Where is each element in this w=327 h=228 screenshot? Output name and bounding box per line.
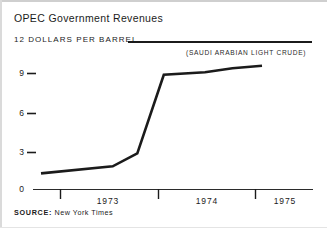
x-tick-label-1974: 1974: [184, 196, 230, 206]
data-series-line: [41, 66, 262, 174]
x-tick-label-1975: 1975: [262, 196, 308, 206]
y-tick-label-9: 9: [10, 68, 24, 78]
y-tick-label-0: 0: [10, 184, 24, 194]
source-label: SOURCE:: [14, 208, 52, 217]
x-tick-label-1973: 1973: [85, 196, 131, 206]
source-note: SOURCE: New York Times: [14, 208, 113, 217]
plot-area: [0, 0, 327, 228]
source-value: New York Times: [55, 208, 114, 217]
y-tick-label-3: 3: [10, 147, 24, 157]
chart-figure: OPEC Government Revenues 12 DOLLARS PER …: [0, 0, 327, 228]
y-tick-label-6: 6: [10, 108, 24, 118]
